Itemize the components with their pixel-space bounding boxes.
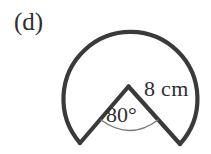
geometry-figure: (d) 8 cm 80° <box>0 0 211 154</box>
part-label: (d) <box>14 9 43 34</box>
side-length-label: 8 cm <box>144 78 189 100</box>
angle-measure-label: 80° <box>106 104 137 126</box>
